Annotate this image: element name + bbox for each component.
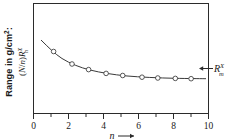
x-tick-label-0: 0 xyxy=(31,121,36,131)
data-point xyxy=(51,49,56,54)
x-axis-tick-labels: 0 2 4 6 8 10 xyxy=(31,121,213,131)
data-curve xyxy=(41,40,206,79)
data-point xyxy=(140,75,145,80)
y-axis-label-line2: (N/n)RXn xyxy=(17,48,29,77)
data-point xyxy=(173,76,178,81)
svg-text:(N/n)RXn: (N/n)RXn xyxy=(17,48,29,77)
x-axis-title-text: n xyxy=(110,130,115,140)
data-point xyxy=(86,67,91,72)
data-point xyxy=(104,71,109,76)
chart-svg: Range in g/cm2: (N/n)RXn xyxy=(0,0,227,140)
x-axis-title: n xyxy=(110,130,135,140)
asymptote-label-sup: X xyxy=(219,62,225,69)
y-label-colon: : xyxy=(4,27,14,30)
y-label-text: Range in g/cm xyxy=(4,34,14,97)
plot-frame xyxy=(34,4,209,114)
x-axis-arrow-icon xyxy=(130,134,134,138)
x-tick-label-6: 6 xyxy=(136,121,141,131)
asymptote-label: RXm xyxy=(213,62,225,77)
asymptote-annotation: RXm xyxy=(199,62,225,77)
left-arrow-icon xyxy=(199,66,203,71)
y-axis-label-line1: Range in g/cm2: xyxy=(3,27,14,96)
x-axis-minor-ticks xyxy=(51,114,191,118)
x-tick-label-10: 10 xyxy=(204,121,214,131)
figure-container: Range in g/cm2: (N/n)RXn xyxy=(0,0,227,140)
data-point xyxy=(156,76,161,81)
data-point xyxy=(120,73,125,78)
x-tick-label-2: 2 xyxy=(66,121,71,131)
data-point xyxy=(189,76,194,81)
data-markers xyxy=(51,49,193,81)
asymptote-label-sub: m xyxy=(219,70,224,77)
x-tick-label-4: 4 xyxy=(101,121,106,131)
data-point xyxy=(70,62,75,67)
y-label2-R-sub: n xyxy=(23,50,29,53)
svg-text:Range in g/cm2:: Range in g/cm2: xyxy=(3,27,14,96)
x-tick-label-8: 8 xyxy=(171,121,176,131)
